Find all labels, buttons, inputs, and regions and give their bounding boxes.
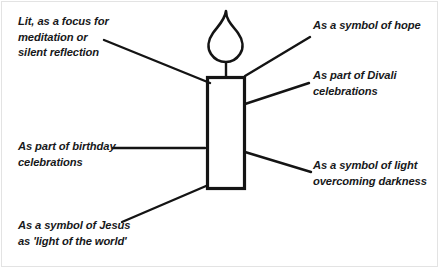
label-jesus-light-of-the-world: As a symbol of Jesus as 'light of the wo… (18, 218, 178, 249)
label-birthday: As part of birthday celebrations (18, 139, 140, 170)
leader-line-divali (245, 83, 309, 104)
diagram-page: Lit, as a focus for meditation or silent… (0, 0, 441, 270)
candle-flame (209, 11, 243, 62)
label-meditation: Lit, as a focus for meditation or silent… (18, 14, 168, 61)
label-hope: As a symbol of hope (313, 18, 435, 34)
candle-body (208, 78, 245, 189)
label-divali: As part of Divali celebrations (313, 68, 433, 99)
leader-line-hope (245, 37, 310, 76)
label-light-overcoming-darkness: As a symbol of light overcoming darkness (313, 158, 439, 189)
leader-line-light (245, 152, 311, 172)
leader-line-jesus (122, 186, 206, 222)
